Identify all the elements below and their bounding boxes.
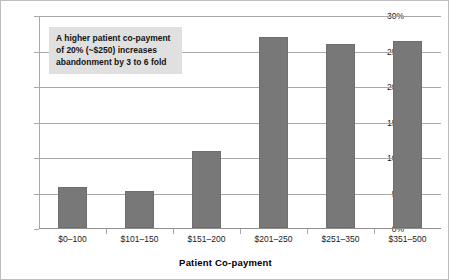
annotation-line-2: of 20% (~$250) increases <box>56 44 175 56</box>
chart-figure: 0%5%10%15%20%25%30% $0–100$101–150$151–2… <box>0 0 449 280</box>
gridline <box>39 123 441 124</box>
x-axis-tick <box>106 229 107 234</box>
annotation-line-3: abandonment by 3 to 6 fold <box>56 56 175 68</box>
x-axis-tick <box>374 229 375 234</box>
y-axis-tick <box>34 229 39 230</box>
x-axis-tick-label: $151–200 <box>173 235 240 244</box>
x-axis-tick <box>240 229 241 234</box>
x-axis-title: Patient Co-payment <box>1 257 449 268</box>
x-axis-tick-label: $201–250 <box>240 235 307 244</box>
bar <box>58 187 87 228</box>
bar <box>192 151 221 228</box>
gridline <box>39 16 441 17</box>
annotation-callout: A higher patient co-payment of 20% (~$25… <box>49 27 182 74</box>
x-axis-tick-label: $251–350 <box>307 235 374 244</box>
x-axis-tick <box>173 229 174 234</box>
bar <box>393 41 422 228</box>
gridline <box>39 87 441 88</box>
y-axis-tick <box>34 52 39 53</box>
y-axis-tick <box>34 123 39 124</box>
y-axis-tick <box>34 16 39 17</box>
gridline <box>39 194 441 195</box>
x-axis-tick <box>307 229 308 234</box>
x-axis-tick-label: $351–500 <box>374 235 441 244</box>
y-axis-tick <box>34 194 39 195</box>
x-axis-tick-label: $0–100 <box>39 235 106 244</box>
y-axis-tick <box>34 87 39 88</box>
x-axis-tick-label: $101–150 <box>106 235 173 244</box>
gridline <box>39 158 441 159</box>
bar <box>125 191 154 228</box>
annotation-line-1: A higher patient co-payment <box>56 32 175 44</box>
bar <box>259 37 288 228</box>
bar <box>326 44 355 228</box>
y-axis-tick <box>34 158 39 159</box>
